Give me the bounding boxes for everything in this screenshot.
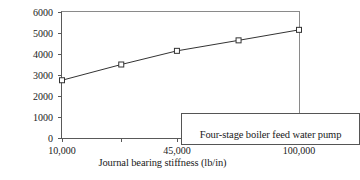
annotation-box: Four-stage boiler feed water pump — [181, 113, 360, 145]
annotation-label: Four-stage boiler feed water pump — [200, 128, 342, 144]
data-point-0 — [60, 78, 65, 83]
x-tick-1 — [121, 138, 122, 142]
x-axis-title: Journal bearing stiffness (lb/in) — [0, 156, 325, 170]
data-point-3 — [236, 38, 241, 43]
y-tick-label: 3000 — [33, 69, 53, 82]
data-point-2 — [174, 48, 179, 53]
plot-area: 0100020003000400050006000 10,00045,00010… — [61, 11, 300, 139]
data-point-1 — [119, 62, 124, 67]
y-tick-label: 2000 — [33, 90, 53, 103]
y-tick-label: 6000 — [33, 6, 53, 19]
y-tick-label: 5000 — [33, 27, 53, 40]
data-line — [62, 30, 299, 80]
data-point-4 — [297, 27, 302, 32]
y-tick-label: 1000 — [33, 111, 53, 124]
x-tick-2 — [177, 138, 178, 142]
y-tick-label: 4000 — [33, 48, 53, 61]
x-tick-0 — [62, 138, 63, 142]
